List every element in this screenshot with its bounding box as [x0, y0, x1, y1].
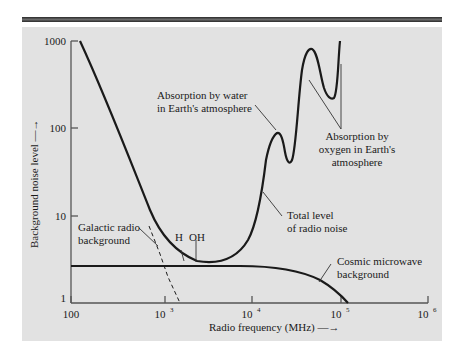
y-axis-title: Background noise level —→ [28, 119, 40, 248]
svg-text:background: background [78, 234, 130, 246]
annotation-h-line: H [175, 231, 183, 243]
svg-text:atmosphere: atmosphere [332, 156, 383, 168]
y-tick-10: 10 [55, 210, 67, 222]
svg-text:Absorption by: Absorption by [325, 130, 389, 142]
svg-text:10: 10 [331, 308, 343, 320]
x-axis [71, 296, 428, 303]
annotation-oh-line: OH [189, 231, 205, 243]
svg-text:background: background [337, 268, 389, 280]
x-tick-1e3: 10 3 [155, 306, 175, 320]
annotation-oxygen-absorption: Absorption by oxygen in Earth's atmosphe… [319, 130, 396, 168]
x-tick-1e4: 10 4 [242, 306, 262, 320]
noise-chart: 1000 100 10 1 100 10 3 10 4 10 5 10 6 Ra… [0, 0, 461, 354]
svg-text:10: 10 [242, 308, 254, 320]
annotation-total-noise: Total level of radio noise [287, 209, 348, 234]
x-tick-1e5: 10 5 [331, 306, 351, 320]
svg-text:Absorption by water: Absorption by water [157, 89, 248, 101]
svg-text:5: 5 [346, 306, 350, 314]
svg-text:10: 10 [155, 308, 167, 320]
cosmic-microwave-background-curve [71, 266, 348, 303]
x-axis-title: Radio frequency (MHz) —→ [209, 321, 339, 334]
y-tick-1: 1 [61, 292, 67, 304]
annotation-water-absorption: Absorption by water in Earth's atmospher… [157, 89, 252, 114]
svg-text:Total level: Total level [287, 209, 334, 221]
svg-text:10: 10 [418, 308, 430, 320]
svg-text:3: 3 [170, 306, 174, 314]
x-tick-1e6: 10 6 [418, 306, 438, 320]
svg-text:in Earth's atmosphere: in Earth's atmosphere [157, 102, 252, 114]
svg-text:Cosmic microwave: Cosmic microwave [337, 255, 422, 267]
y-axis [71, 41, 78, 303]
annotation-galactic-radio: Galactic radio background [78, 221, 140, 246]
y-tick-100: 100 [50, 122, 67, 134]
y-tick-1000: 1000 [44, 35, 67, 47]
svg-text:Galactic radio: Galactic radio [78, 221, 140, 233]
x-tick-100: 100 [63, 308, 80, 320]
svg-text:4: 4 [257, 306, 261, 314]
svg-text:oxygen in Earth's: oxygen in Earth's [319, 143, 396, 155]
svg-text:6: 6 [433, 306, 437, 314]
svg-text:of radio noise: of radio noise [287, 222, 348, 234]
annotation-cmb: Cosmic microwave background [337, 255, 422, 280]
